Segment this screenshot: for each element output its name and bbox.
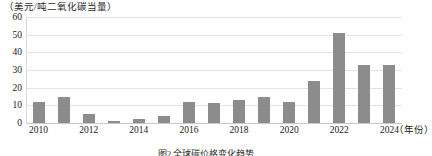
x-tick-label-2012: 2012 [79, 124, 98, 136]
plot-area: 0102030405060 [26, 17, 402, 123]
x-tick-label-2016: 2016 [179, 124, 198, 136]
x-tick-label-2022: 2022 [330, 124, 349, 136]
bar-2011 [58, 97, 70, 124]
bar-2017 [208, 103, 220, 123]
bar-2020 [283, 102, 295, 123]
y-tick-label-30: 30 [13, 65, 23, 75]
bar-2013 [108, 121, 120, 123]
x-tick-label-2018: 2018 [230, 124, 249, 136]
x-axis-unit-label: （年份） [394, 124, 432, 136]
bar-2018 [233, 100, 245, 123]
bar-2023 [358, 65, 370, 123]
bar-2024 [383, 65, 395, 123]
x-axis-ticks: （年份） 20102012201420162018202020222024 [26, 124, 402, 138]
bar-2012 [83, 114, 95, 123]
y-tick-label-20: 20 [13, 83, 23, 93]
x-tick-label-2020: 2020 [280, 124, 299, 136]
bar-2015 [158, 116, 170, 123]
bar-2022 [333, 33, 345, 123]
bar-2014 [133, 119, 145, 123]
y-tick-label-50: 50 [13, 30, 23, 40]
x-tick-label-2014: 2014 [129, 124, 148, 136]
y-tick-label-0: 0 [17, 118, 22, 128]
bar-2016 [183, 102, 195, 123]
x-tick-label-2024: 2024 [380, 124, 399, 136]
figure-caption: 图2 全球碳价格变化趋势 [0, 148, 412, 156]
y-tick-label-40: 40 [13, 47, 23, 57]
bar-2010 [33, 102, 45, 123]
bar-2021 [308, 81, 320, 123]
bars-group [26, 17, 402, 123]
bar-2019 [258, 97, 270, 124]
x-tick-label-2010: 2010 [29, 124, 48, 136]
y-tick-label-60: 60 [13, 12, 23, 22]
y-tick-label-10: 10 [13, 100, 23, 110]
